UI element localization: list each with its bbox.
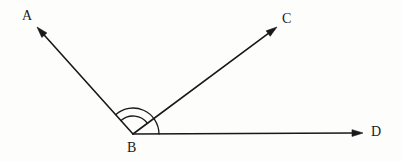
angle-figure [0, 0, 402, 161]
line-ray-bd [133, 133, 354, 134]
point-label-c: C [282, 12, 292, 26]
point-label-b: B [127, 141, 137, 155]
line-ray-ba [43, 34, 133, 134]
arrowhead-c [266, 27, 277, 36]
geometry-group [37, 27, 363, 136]
diagram-canvas: A C D B [0, 0, 402, 161]
arrowhead-d [352, 130, 363, 137]
angle-arc-abc [121, 116, 147, 123]
point-label-a: A [22, 9, 32, 23]
point-label-d: D [371, 125, 381, 139]
